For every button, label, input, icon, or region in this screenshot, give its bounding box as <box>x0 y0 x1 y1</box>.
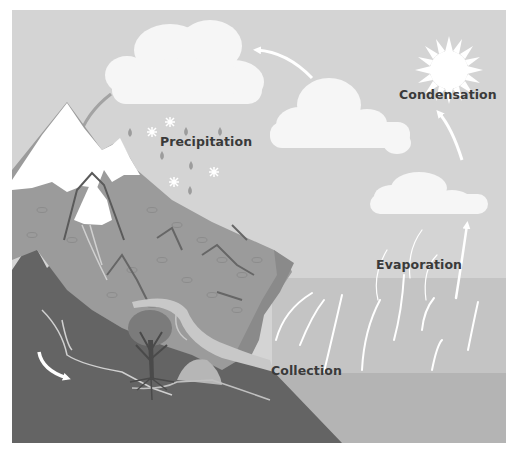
water-cycle-illustration <box>12 10 506 443</box>
label-evaporation: Evaporation <box>376 257 462 272</box>
label-collection: Collection <box>271 363 342 378</box>
label-condensation: Condensation <box>399 87 497 102</box>
label-precipitation: Precipitation <box>160 134 252 149</box>
water-cycle-diagram: Precipitation Condensation Evaporation C… <box>12 10 506 443</box>
